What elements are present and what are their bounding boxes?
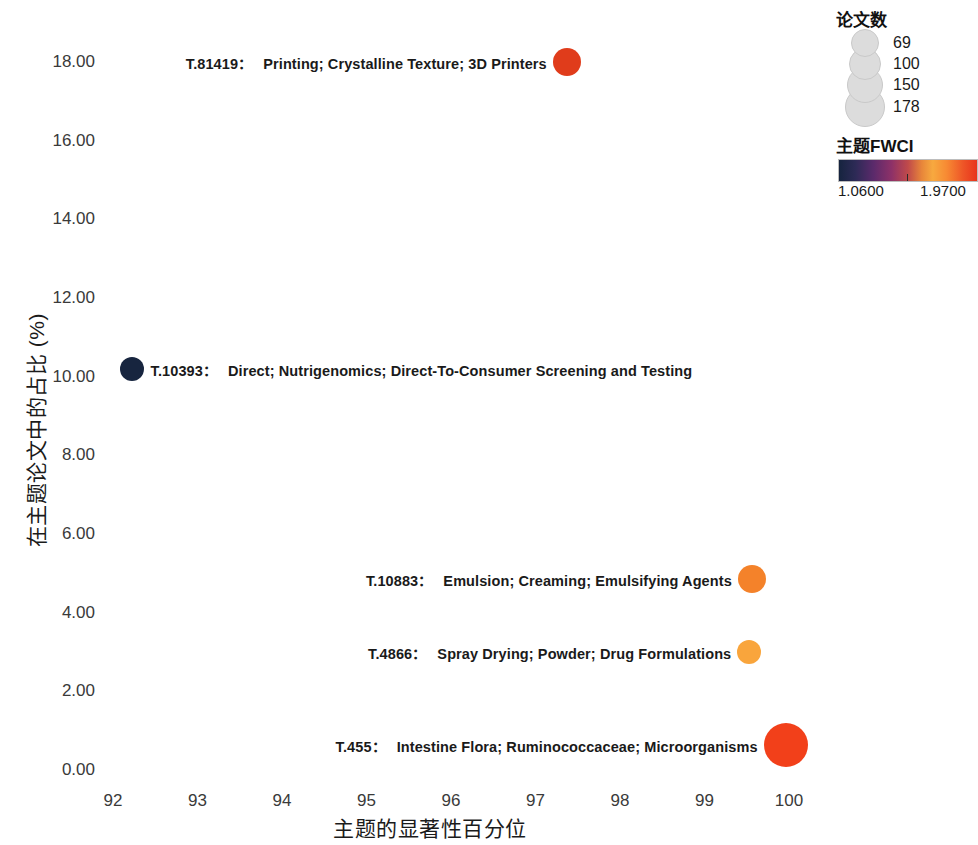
y-axis-tick-label: 18.00 [15,52,95,72]
y-axis-tick-label: 4.00 [15,603,95,623]
x-axis-tick-label: 98 [590,791,650,811]
fwci-colorbar [838,159,978,182]
x-axis-tick-label: 99 [675,791,735,811]
y-axis-tick-label: 14.00 [15,209,95,229]
x-axis-tick-label: 94 [252,791,312,811]
scatter-point-id: T.81419 [186,56,238,72]
scatter-point-label-separator: ： [372,739,386,755]
size-legend-label: 150 [893,76,920,94]
scatter-point[interactable] [120,357,144,381]
scatter-point-terms: Printing; Crystalline Texture; 3D Printe… [263,56,547,72]
scatter-point-terms: Spray Drying; Powder; Drug Formulations [437,646,731,662]
scatter-point-terms: Intestine Flora; Ruminococcaceae; Microo… [397,739,758,755]
scatter-point-terms: Direct; Nutrigenomics; Direct-To-Consume… [228,362,692,378]
x-axis-tick-label: 96 [421,791,481,811]
scatter-point[interactable] [764,723,808,767]
scatter-point-label-separator: ： [418,573,432,589]
size-legend-label: 100 [893,55,920,73]
colorbar-max-label: 1.9700 [920,182,966,199]
size-legend-circle [851,29,879,57]
colorbar-min-label: 1.0600 [838,182,884,199]
y-axis-tick-label: 16.00 [15,131,95,151]
y-axis-tick-label: 8.00 [15,445,95,465]
y-axis-tick-label: 10.00 [15,367,95,387]
scatter-point-label: T.4866：Spray Drying; Powder; Drug Formul… [368,642,731,663]
x-axis-tick-label: 100 [759,791,819,811]
x-axis-tick-label: 95 [337,791,397,811]
scatter-point-id: T.455 [336,739,372,755]
scatter-point-label: T.10393：Direct; Nutrigenomics; Direct-To… [151,358,693,379]
scatter-point-label-separator: ： [203,362,217,378]
x-axis-tick-label: 92 [83,791,143,811]
y-axis-tick-label: 12.00 [15,288,95,308]
scatter-point-label: T.10883：Emulsion; Creaming; Emulsifying … [366,569,732,590]
scatter-point-id: T.10883 [366,573,418,589]
x-axis-title: 主题的显著性百分位 [0,812,860,842]
size-legend-label: 178 [893,98,920,116]
x-axis-tick-label: 93 [168,791,228,811]
size-legend-label: 69 [893,34,911,52]
scatter-point[interactable] [737,640,761,664]
scatter-point-label: T.81419：Printing; Crystalline Texture; 3… [186,52,547,73]
scatter-point-id: T.10393 [151,362,203,378]
size-legend-title: 论文数 [836,6,887,31]
scatter-point-label-separator: ： [238,56,252,72]
color-legend-title: 主题FWCI [836,132,913,157]
scatter-point[interactable] [553,48,581,76]
x-axis-tick-label: 97 [506,791,566,811]
scatter-point[interactable] [738,565,766,593]
chart-canvas: 在主题论文中的占比 (%) 0.002.004.006.008.0010.001… [0,0,978,845]
y-axis-tick-label: 0.00 [15,760,95,780]
scatter-point-label-separator: ： [412,646,426,662]
y-axis-tick-label: 6.00 [15,524,95,544]
scatter-point-label: T.455：Intestine Flora; Ruminococcaceae; … [336,735,758,756]
scatter-point-id: T.4866 [368,646,412,662]
y-axis-tick-label: 2.00 [15,681,95,701]
y-axis-title: 在主题论文中的占比 (%) [20,220,50,640]
colorbar-tick [907,174,908,181]
scatter-point-terms: Emulsion; Creaming; Emulsifying Agents [443,573,731,589]
